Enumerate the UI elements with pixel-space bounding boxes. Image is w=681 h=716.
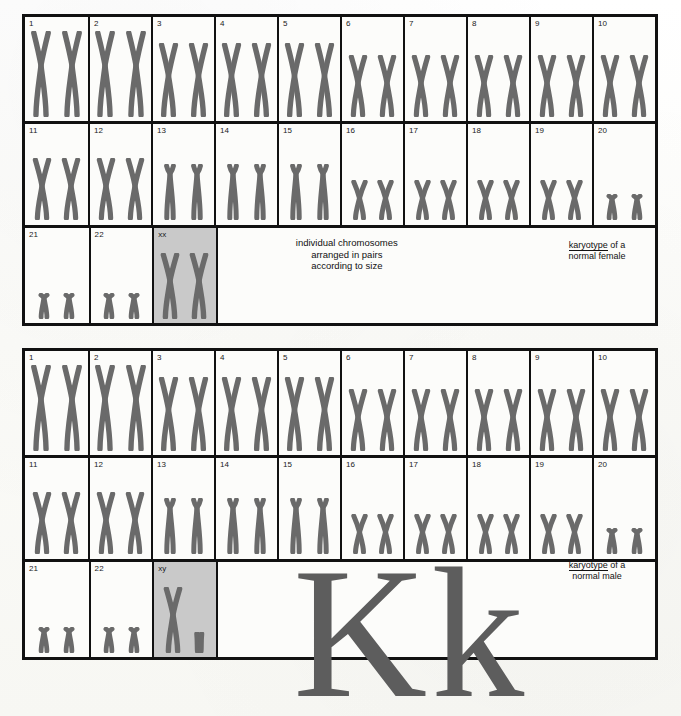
chromosome-pair-glyph xyxy=(154,583,216,653)
karyotype-row: 11121314151617181920 xyxy=(25,121,655,225)
chromosome-label: 5 xyxy=(283,353,288,362)
chromosome-cell-6[interactable]: 6 xyxy=(340,17,403,121)
chromosome-cell-5[interactable]: 5 xyxy=(277,17,340,121)
chromosome-cell-3[interactable]: 3 xyxy=(151,351,214,455)
chromosome-cell-9[interactable]: 9 xyxy=(529,351,592,455)
chromosome-cell-17[interactable]: 17 xyxy=(403,124,466,225)
chromosome-label: 18 xyxy=(472,126,481,135)
chromosome-cell-11[interactable]: 11 xyxy=(25,124,88,225)
chromosome-label: xy xyxy=(158,564,166,573)
chromosome-label: 10 xyxy=(598,19,607,28)
caption-male-keyword: karyotype xyxy=(569,560,608,571)
chromosome-pair-glyph xyxy=(342,146,403,220)
chromosome-pair-glyph xyxy=(153,480,214,554)
chromosome-cell-16[interactable]: 16 xyxy=(340,124,403,225)
chromosome-label: 15 xyxy=(283,126,292,135)
chromosome-cell-10[interactable]: 10 xyxy=(592,17,655,121)
chromosome-label: xx xyxy=(158,230,166,239)
chromosome-label: 14 xyxy=(220,460,229,469)
chromosome-label: 4 xyxy=(220,19,225,28)
chromosome-pair-glyph xyxy=(405,146,466,220)
chromosome-cell-3[interactable]: 3 xyxy=(151,17,214,121)
chromosome-label: 10 xyxy=(598,353,607,362)
chromosome-label: 19 xyxy=(535,460,544,469)
chromosome-cell-20[interactable]: 20 xyxy=(592,124,655,225)
chromosome-label: 12 xyxy=(94,460,103,469)
chromosome-cell-13[interactable]: 13 xyxy=(151,458,214,559)
chromosome-cell-1[interactable]: 1 xyxy=(25,351,88,455)
chromosome-pair-glyph xyxy=(468,146,529,220)
chromosome-label: 7 xyxy=(409,19,414,28)
chromosome-cell-8[interactable]: 8 xyxy=(466,17,529,121)
chromosome-label: 11 xyxy=(29,126,38,135)
chromosome-label: 16 xyxy=(346,126,355,135)
chromosome-label: 13 xyxy=(157,460,166,469)
chromosome-cell-20[interactable]: 20 xyxy=(592,458,655,559)
chromosome-pair-glyph xyxy=(153,146,214,220)
chromosome-cell-4[interactable]: 4 xyxy=(214,17,277,121)
chromosome-cell-4[interactable]: 4 xyxy=(214,351,277,455)
chromosome-cell-19[interactable]: 19 xyxy=(529,124,592,225)
chromosome-cell-7[interactable]: 7 xyxy=(403,17,466,121)
chromosome-pair-glyph xyxy=(90,146,151,220)
caption-male-line2: normal male xyxy=(572,571,622,581)
chromosome-pair-glyph xyxy=(531,363,592,451)
chromosome-cell-11[interactable]: 11 xyxy=(25,458,88,559)
chromosome-cell-14[interactable]: 14 xyxy=(214,124,277,225)
chromosome-label: 4 xyxy=(220,353,225,362)
chromosome-pair-glyph xyxy=(153,363,214,451)
chromosome-label: 22 xyxy=(95,564,104,573)
chromosome-cell-19[interactable]: 19 xyxy=(529,458,592,559)
chromosome-label: 9 xyxy=(535,353,540,362)
chromosome-cell-14[interactable]: 14 xyxy=(214,458,277,559)
chromosome-label: 21 xyxy=(29,230,38,239)
chromosome-pair-glyph xyxy=(594,146,655,220)
chromosome-pair-glyph xyxy=(594,29,655,117)
chromosome-cell-2[interactable]: 2 xyxy=(88,351,151,455)
chromosome-cell-8[interactable]: 8 xyxy=(466,351,529,455)
chromosome-cell-22[interactable]: 22 xyxy=(89,562,153,657)
chromosome-cell-6[interactable]: 6 xyxy=(340,351,403,455)
chromosome-cell-12[interactable]: 12 xyxy=(88,458,151,559)
chromosome-cell-21[interactable]: 21 xyxy=(25,562,89,657)
chromosome-cell-xy[interactable]: xy xyxy=(152,562,216,657)
chromosome-pair-glyph xyxy=(216,146,277,220)
chromosome-cell-10[interactable]: 10 xyxy=(592,351,655,455)
chromosome-pair-glyph xyxy=(342,363,403,451)
annotation-line-3: according to size xyxy=(262,260,432,272)
chromosome-cell-xx[interactable]: xx xyxy=(152,228,216,323)
caption-female-line2: normal female xyxy=(568,251,625,261)
chromosome-label: 1 xyxy=(29,353,34,362)
chromosome-cell-22[interactable]: 22 xyxy=(89,228,153,323)
chromosome-pair-glyph xyxy=(216,29,277,117)
chromosome-cell-12[interactable]: 12 xyxy=(88,124,151,225)
chromosome-pair-glyph xyxy=(279,146,340,220)
caption-male-rest: of a xyxy=(608,560,626,570)
chromosome-pair-glyph xyxy=(279,363,340,451)
chromosome-pair-glyph xyxy=(594,363,655,451)
chromosome-cell-5[interactable]: 5 xyxy=(277,351,340,455)
chromosome-pair-glyph xyxy=(90,363,151,451)
chromosome-pair-glyph xyxy=(153,29,214,117)
chromosome-cell-15[interactable]: 15 xyxy=(277,124,340,225)
chromosome-label: 8 xyxy=(472,353,477,362)
chromosome-label: 15 xyxy=(283,460,292,469)
chromosome-cell-2[interactable]: 2 xyxy=(88,17,151,121)
chromosome-pair-glyph xyxy=(405,363,466,451)
annotation-line-1: individual chromosomes xyxy=(262,237,432,249)
chromosome-pair-glyph xyxy=(531,29,592,117)
caption-female-keyword: karyotype xyxy=(569,240,608,251)
chromosome-cell-18[interactable]: 18 xyxy=(466,124,529,225)
karyotype-row: 12345678910 xyxy=(25,351,655,455)
chromosome-cell-1[interactable]: 1 xyxy=(25,17,88,121)
chromosome-cell-13[interactable]: 13 xyxy=(151,124,214,225)
chromosome-label: 14 xyxy=(220,126,229,135)
chromosome-pair-glyph xyxy=(531,146,592,220)
chromosome-label: 8 xyxy=(472,19,477,28)
chromosome-cell-7[interactable]: 7 xyxy=(403,351,466,455)
chromosome-cell-21[interactable]: 21 xyxy=(25,228,89,323)
chromosome-cell-9[interactable]: 9 xyxy=(529,17,592,121)
chromosome-pair-glyph xyxy=(154,249,216,319)
caption-male: karyotype of a normal male xyxy=(527,560,667,582)
chromosome-label: 13 xyxy=(157,126,166,135)
